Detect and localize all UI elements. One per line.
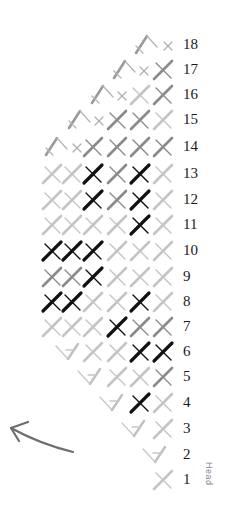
stitch-row-9 [43, 268, 172, 286]
stitch-row-18 [136, 36, 172, 53]
row-label: 14 [183, 138, 209, 154]
cross-stitch [154, 420, 172, 438]
cross-stitch [63, 191, 81, 209]
cross-stitch [154, 368, 172, 386]
cross-stitch [108, 268, 126, 286]
cross-stitch [63, 293, 81, 311]
row-label: 18 [183, 36, 209, 52]
cross-stitch [154, 165, 172, 183]
cross-stitch [154, 61, 172, 79]
turn-peak-stitch [114, 61, 135, 78]
cross-stitch [131, 216, 149, 234]
small-cross [95, 117, 103, 125]
cross-stitch [131, 268, 149, 286]
cross-stitch [131, 318, 149, 336]
cross-stitch [43, 268, 61, 286]
stitch-row-2 [143, 447, 165, 462]
cross-stitch [43, 293, 61, 311]
cross-stitch [63, 165, 81, 183]
cross-stitch [84, 216, 102, 234]
arrow-up-left-icon [11, 422, 73, 452]
row-label: 13 [183, 165, 209, 181]
turn-peak-stitch [92, 86, 113, 103]
cross-stitch [154, 216, 172, 234]
cross-stitch [43, 216, 61, 234]
cross-stitch [154, 293, 172, 311]
turn-peak-stitch [46, 138, 67, 155]
cross-stitch [108, 111, 126, 129]
row-label: 9 [183, 268, 209, 284]
turn-valley-stitch [122, 421, 144, 436]
head-label: Head [204, 462, 214, 486]
cross-stitch [43, 191, 61, 209]
small-cross [118, 92, 126, 100]
row-label: 16 [183, 86, 209, 102]
turn-valley-stitch [56, 344, 78, 359]
stitch-row-10 [43, 242, 172, 260]
cross-stitch [84, 318, 102, 336]
cross-stitch [131, 86, 149, 104]
cross-stitch [108, 368, 126, 386]
cross-stitch [154, 471, 172, 489]
cross-stitch [63, 242, 81, 260]
stitch-row-1 [154, 471, 172, 489]
stitch-row-16 [92, 86, 172, 104]
row-label: 6 [183, 343, 209, 359]
cross-stitch [131, 242, 149, 260]
cross-stitch [154, 394, 172, 412]
cross-stitch [154, 138, 172, 156]
cross-stitch [84, 293, 102, 311]
cross-stitch [43, 165, 61, 183]
cross-stitch [154, 268, 172, 286]
cross-stitch [154, 86, 172, 104]
turn-peak-stitch [136, 36, 157, 53]
cross-stitch [84, 165, 102, 183]
stitch-row-3 [122, 420, 172, 438]
stitch-row-12 [43, 191, 172, 209]
cross-stitch [84, 268, 102, 286]
stitch-row-5 [78, 368, 172, 386]
stitch-row-4 [100, 394, 172, 412]
cross-stitch [108, 216, 126, 234]
turn-valley-stitch [78, 369, 100, 384]
stitch-row-8 [43, 293, 172, 311]
cross-stitch [63, 216, 81, 234]
stitch-row-7 [43, 318, 172, 336]
row-label: 17 [183, 61, 209, 77]
cross-stitch [108, 165, 126, 183]
cross-stitch [131, 394, 149, 412]
cross-stitch [43, 242, 61, 260]
cross-stitch [108, 191, 126, 209]
cross-stitch [131, 111, 149, 129]
row-label: 15 [183, 111, 209, 127]
small-cross [140, 67, 148, 75]
stitch-grid [43, 36, 172, 489]
cross-stitch [84, 138, 102, 156]
small-cross [73, 144, 81, 152]
cross-stitch [84, 343, 102, 361]
cross-stitch [131, 191, 149, 209]
cross-stitch [108, 138, 126, 156]
cross-stitch [154, 111, 172, 129]
cross-stitch [84, 242, 102, 260]
stitch-row-17 [114, 61, 172, 79]
small-cross [164, 42, 172, 50]
stitch-row-14 [46, 138, 172, 156]
cross-stitch [108, 318, 126, 336]
stitch-row-13 [43, 165, 172, 183]
row-label: 8 [183, 293, 209, 309]
row-label: 3 [183, 420, 209, 436]
turn-valley-stitch [143, 447, 165, 462]
cross-stitch [43, 318, 61, 336]
cross-stitch [131, 293, 149, 311]
cross-stitch [131, 138, 149, 156]
turn-valley-stitch [100, 395, 122, 410]
cross-stitch [108, 343, 126, 361]
cross-stitch [63, 268, 81, 286]
row-label: 11 [183, 216, 209, 232]
cross-stitch [131, 368, 149, 386]
cross-stitch [154, 191, 172, 209]
cross-stitch [131, 165, 149, 183]
row-label: 7 [183, 318, 209, 334]
stitch-chart [0, 0, 236, 516]
